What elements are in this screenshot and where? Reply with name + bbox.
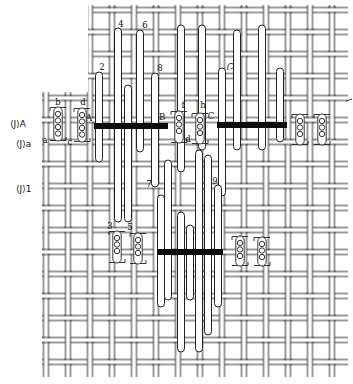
coil-ring bbox=[79, 112, 84, 117]
warp-float-thread bbox=[152, 73, 159, 187]
warp-float-thread bbox=[215, 185, 222, 307]
warp-float-thread bbox=[125, 85, 132, 222]
coil-ring bbox=[297, 131, 302, 136]
coil-ring bbox=[114, 242, 119, 247]
coil-ring bbox=[259, 254, 264, 259]
warp-float-thread bbox=[178, 25, 185, 172]
point-label: 7 bbox=[146, 179, 151, 189]
coil-ring bbox=[237, 240, 242, 245]
coil-ring bbox=[297, 125, 302, 130]
point-label: B bbox=[159, 112, 165, 122]
blank-top-left-margin bbox=[42, 5, 88, 92]
coil-ring bbox=[197, 117, 202, 122]
coil-ring bbox=[259, 248, 264, 253]
point-label: 5 bbox=[127, 222, 132, 232]
point-label: d bbox=[80, 97, 86, 107]
warp-float-thread bbox=[96, 72, 103, 162]
point-label: c bbox=[68, 137, 73, 147]
point-label: h bbox=[200, 100, 206, 110]
coil-ring bbox=[135, 237, 140, 242]
point-label: a bbox=[42, 135, 47, 145]
coil-ring bbox=[237, 247, 242, 252]
warp-float-thread bbox=[205, 155, 212, 335]
coil-ring bbox=[135, 250, 140, 255]
coil-ring bbox=[55, 111, 60, 116]
warp-float-thread bbox=[219, 68, 226, 196]
weft-bar bbox=[157, 249, 223, 255]
row-label: ⟨J⟩a bbox=[16, 139, 31, 149]
coil-ring bbox=[114, 235, 119, 240]
coil-ring bbox=[176, 128, 181, 133]
coil-ring bbox=[114, 248, 119, 253]
coil-ring bbox=[297, 118, 302, 123]
coil-ring bbox=[79, 125, 84, 130]
warp-float-thread bbox=[277, 68, 284, 142]
coil-ring bbox=[135, 244, 140, 249]
row-label: ⟨J⟩1 bbox=[16, 184, 31, 194]
point-label: 3 bbox=[107, 221, 112, 231]
point-label: 9 bbox=[212, 176, 217, 186]
point-label: A bbox=[85, 113, 93, 123]
coil-ring bbox=[319, 131, 324, 136]
point-label: C bbox=[208, 111, 215, 121]
point-label: 8 bbox=[157, 63, 162, 73]
coil-ring bbox=[176, 115, 181, 120]
coil-ring bbox=[319, 125, 324, 130]
coil-ring bbox=[197, 130, 202, 135]
weft-bar bbox=[94, 123, 168, 129]
warp-float-thread bbox=[137, 30, 144, 152]
coil-ring bbox=[197, 124, 202, 129]
row-label: ⟨J⟩A bbox=[10, 119, 27, 129]
warp-float-thread bbox=[187, 225, 194, 300]
coil-ring bbox=[237, 253, 242, 258]
coil-ring bbox=[55, 131, 60, 136]
coil-ring bbox=[79, 119, 84, 124]
warp-float-thread bbox=[178, 212, 185, 352]
coil-ring bbox=[55, 124, 60, 129]
point-label: b bbox=[55, 97, 61, 107]
warp-float-thread bbox=[234, 30, 241, 150]
coil-ring bbox=[319, 118, 324, 123]
coil-ring bbox=[79, 132, 84, 137]
coil-ring bbox=[176, 122, 181, 127]
warp-float-thread bbox=[259, 25, 266, 150]
coil-ring bbox=[259, 241, 264, 246]
point-label: 6 bbox=[142, 20, 147, 30]
point-label: d bbox=[185, 134, 191, 144]
weave-diagram-figure: 2468bdacABCfhd7935⟨J⟩A⟨J⟩a⟨J⟩1 bbox=[0, 0, 353, 384]
point-label: 4 bbox=[118, 19, 123, 29]
point-label: 2 bbox=[99, 62, 104, 72]
coil-ring bbox=[55, 118, 60, 123]
warp-float-thread bbox=[165, 160, 172, 300]
weave-diagram-svg: 2468bdacABCfhd7935⟨J⟩A⟨J⟩a⟨J⟩1 bbox=[0, 0, 353, 384]
weft-bar bbox=[217, 122, 287, 128]
